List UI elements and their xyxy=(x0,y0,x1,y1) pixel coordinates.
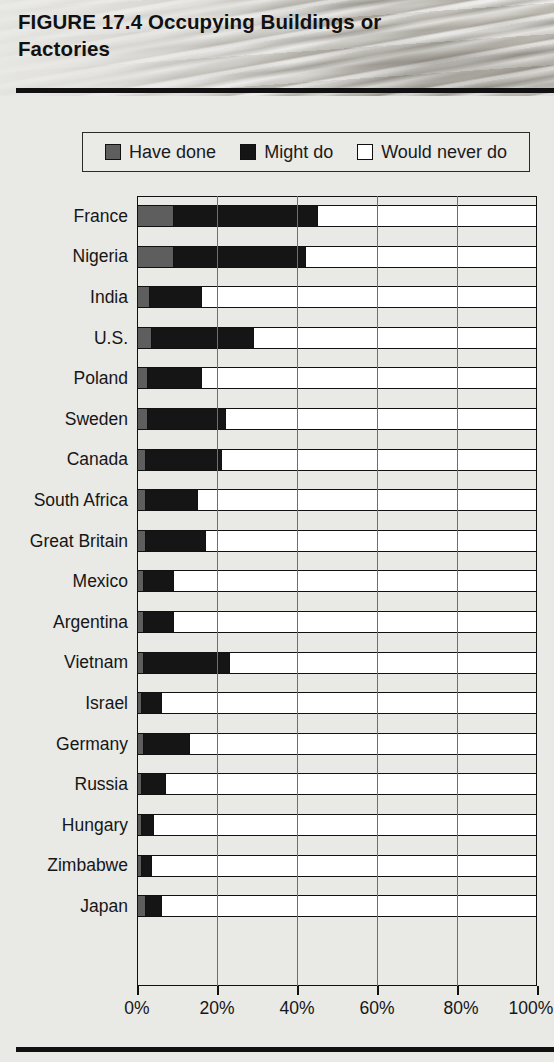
y-axis-label: Sweden xyxy=(0,409,137,430)
stacked-bar xyxy=(137,611,537,633)
stacked-bar xyxy=(137,408,537,430)
x-tick xyxy=(297,986,299,995)
bar-track xyxy=(137,764,537,805)
bar-row: Nigeria xyxy=(0,237,554,278)
legend-label-would-never-do: Would never do xyxy=(381,142,507,163)
stacked-bar xyxy=(137,773,537,795)
plot-area: FranceNigeriaIndiaU.S.PolandSwedenCanada… xyxy=(0,196,554,986)
bar-segment-have-done xyxy=(138,490,146,510)
bar-segment-would-never-do xyxy=(174,612,536,632)
bar-segment-would-never-do xyxy=(198,490,536,510)
y-axis-label: U.S. xyxy=(0,328,137,349)
filled-square-black-icon xyxy=(240,144,256,160)
bottom-rule xyxy=(16,1047,554,1052)
bar-row: Mexico xyxy=(0,561,554,602)
bar-row: South Africa xyxy=(0,480,554,521)
stacked-bar xyxy=(137,286,537,308)
bar-track xyxy=(137,643,537,684)
bar-segment-might-do xyxy=(174,206,318,226)
bar-track xyxy=(137,277,537,318)
bar-row: Canada xyxy=(0,440,554,481)
x-tick xyxy=(457,986,459,995)
bar-segment-might-do xyxy=(144,612,174,632)
bar-track xyxy=(137,318,537,359)
legend-item-have-done: Have done xyxy=(105,142,216,163)
bar-track xyxy=(137,521,537,562)
stacked-bar xyxy=(137,367,537,389)
bar-segment-have-done xyxy=(138,328,152,348)
x-tick-label: 80% xyxy=(443,998,478,1019)
y-axis-label: Great Britain xyxy=(0,531,137,552)
y-axis-label: Nigeria xyxy=(0,246,137,267)
bar-segment-might-do xyxy=(146,450,222,470)
bar-segment-have-done xyxy=(138,287,150,307)
x-tick-label: 60% xyxy=(359,998,394,1019)
x-axis-tick-labels: 0%20%40%60%80%100% xyxy=(137,998,537,1024)
bar-row: Sweden xyxy=(0,399,554,440)
stacked-bar xyxy=(137,814,537,836)
bar-row: India xyxy=(0,277,554,318)
stacked-bar xyxy=(137,652,537,674)
x-tick xyxy=(137,986,139,995)
bar-row: France xyxy=(0,196,554,237)
bar-segment-would-never-do xyxy=(202,287,536,307)
y-axis-label: Hungary xyxy=(0,815,137,836)
bar-track xyxy=(137,237,537,278)
figure-page: FIGURE 17.4 Occupying Buildings or Facto… xyxy=(0,0,554,1062)
top-rule xyxy=(16,88,554,93)
legend-label-might-do: Might do xyxy=(264,142,333,163)
bar-segment-might-do xyxy=(146,896,162,916)
bar-track xyxy=(137,846,537,887)
bar-segment-might-do xyxy=(142,815,154,835)
bar-segment-would-never-do xyxy=(202,368,536,388)
y-axis-label: South Africa xyxy=(0,490,137,511)
bar-track xyxy=(137,724,537,765)
bar-segment-might-do xyxy=(152,328,254,348)
bar-row: Vietnam xyxy=(0,643,554,684)
bar-row: Germany xyxy=(0,724,554,765)
x-tick xyxy=(217,986,219,995)
bar-segment-have-done xyxy=(138,247,174,267)
empty-square-white-icon xyxy=(357,144,373,160)
bar-segment-might-do xyxy=(144,734,190,754)
bar-segment-might-do xyxy=(146,490,198,510)
bar-row: Zimbabwe xyxy=(0,846,554,887)
stacked-bar xyxy=(137,692,537,714)
bar-segment-would-never-do xyxy=(162,896,536,916)
bar-segment-have-done xyxy=(138,368,148,388)
bar-segment-would-never-do xyxy=(254,328,536,348)
bar-track xyxy=(137,805,537,846)
filled-square-gray-icon xyxy=(105,144,121,160)
bar-segment-would-never-do xyxy=(152,856,536,876)
y-axis-label: Vietnam xyxy=(0,652,137,673)
bar-track xyxy=(137,886,537,927)
y-axis-label: Poland xyxy=(0,368,137,389)
chart-legend: Have done Might do Would never do xyxy=(82,132,530,172)
y-axis-label: Zimbabwe xyxy=(0,855,137,876)
bar-row: U.S. xyxy=(0,318,554,359)
bar-track xyxy=(137,561,537,602)
bar-track xyxy=(137,602,537,643)
bar-segment-would-never-do xyxy=(174,571,536,591)
bar-segment-have-done xyxy=(138,409,148,429)
y-axis-label: India xyxy=(0,287,137,308)
y-axis-label: Israel xyxy=(0,693,137,714)
x-tick-label: 20% xyxy=(199,998,234,1019)
bar-segment-might-do xyxy=(142,856,152,876)
stacked-bar xyxy=(137,733,537,755)
bar-segment-might-do xyxy=(144,653,230,673)
y-axis-label: Germany xyxy=(0,734,137,755)
bar-segment-would-never-do xyxy=(162,693,536,713)
bar-segment-might-do xyxy=(150,287,202,307)
stacked-bar xyxy=(137,327,537,349)
bar-track xyxy=(137,440,537,481)
x-tick-label: 40% xyxy=(279,998,314,1019)
bar-segment-have-done xyxy=(138,206,174,226)
bar-segment-would-never-do xyxy=(166,774,536,794)
bar-row: Hungary xyxy=(0,805,554,846)
bar-row: Israel xyxy=(0,683,554,724)
stacked-bar xyxy=(137,895,537,917)
bar-row: Russia xyxy=(0,764,554,805)
x-tick-label: 100% xyxy=(509,998,554,1019)
stacked-bar xyxy=(137,205,537,227)
